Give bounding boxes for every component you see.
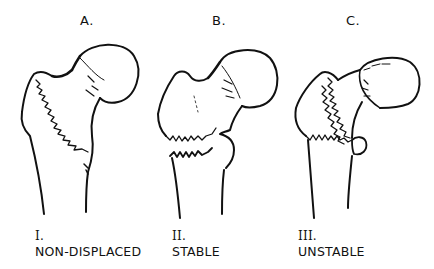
femur-drawing-b <box>142 36 292 222</box>
caption-non-displaced: I. NON-DISPLACED <box>35 228 141 260</box>
femur-illustration-stable <box>142 36 292 222</box>
type-numeral-iii: III. <box>298 228 365 244</box>
type-numeral-i: I. <box>35 228 141 244</box>
type-label-unstable: UNSTABLE <box>298 244 365 260</box>
femur-drawing-a <box>0 36 150 222</box>
panel-letter-a: A. <box>80 13 94 28</box>
panel-letter-c: C. <box>346 13 360 28</box>
type-label-non-displaced: NON-DISPLACED <box>35 244 141 260</box>
type-numeral-ii: II. <box>172 228 220 244</box>
caption-stable: II. STABLE <box>172 228 220 260</box>
caption-unstable: III. UNSTABLE <box>298 228 365 260</box>
femur-illustration-non-displaced <box>0 36 150 222</box>
panel-letter-b: B. <box>212 13 226 28</box>
type-label-stable: STABLE <box>172 244 220 260</box>
femur-drawing-c <box>282 36 432 222</box>
femur-illustration-unstable <box>282 36 432 222</box>
